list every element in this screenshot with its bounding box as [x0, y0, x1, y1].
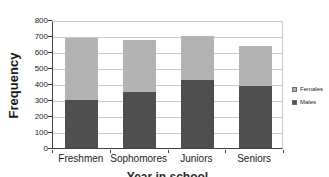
legend-label-females: Females	[300, 86, 323, 92]
x-category-label-juniors: Juniors	[168, 153, 226, 164]
bar-freshmen-females	[65, 38, 98, 100]
y-tick-500	[48, 68, 52, 69]
x-tick-4	[283, 150, 284, 153]
y-tick-label-500: 500	[18, 64, 48, 73]
y-tick-label-300: 300	[18, 96, 48, 105]
x-category-label-seniors: Seniors	[225, 153, 283, 164]
y-tick-label-200: 200	[18, 112, 48, 121]
bar-juniors-females	[181, 36, 214, 80]
y-tick-label-600: 600	[18, 48, 48, 57]
legend-item-females: Females	[292, 86, 329, 92]
legend-swatch-males	[292, 100, 297, 105]
y-tick-400	[48, 84, 52, 85]
x-category-label-freshmen: Freshmen	[52, 153, 110, 164]
y-tick-300	[48, 100, 52, 101]
y-tick-label-700: 700	[18, 32, 48, 41]
x-category-label-sophomores: Sophomores	[110, 153, 168, 164]
bar-freshmen-males	[65, 100, 98, 148]
y-tick-200	[48, 116, 52, 117]
bar-juniors-males	[181, 80, 214, 148]
y-tick-label-400: 400	[18, 80, 48, 89]
y-tick-800	[48, 20, 52, 21]
plot-area	[52, 21, 283, 149]
y-tick-label-0: 0	[18, 144, 48, 153]
legend-swatch-females	[292, 87, 297, 92]
legend: FemalesMales	[292, 86, 329, 112]
y-tick-label-800: 800	[18, 16, 48, 25]
y-tick-600	[48, 52, 52, 53]
bar-seniors-males	[239, 86, 272, 148]
y-tick-100	[48, 132, 52, 133]
y-tick-700	[48, 36, 52, 37]
legend-label-males: Males	[300, 99, 316, 105]
bar-seniors-females	[239, 46, 272, 86]
x-axis-title: Year in school	[52, 171, 283, 177]
legend-item-males: Males	[292, 99, 329, 105]
y-tick-0	[48, 148, 52, 149]
bar-sophomores-males	[123, 92, 156, 148]
y-tick-label-100: 100	[18, 128, 48, 137]
bar-sophomores-females	[123, 40, 156, 92]
stacked-bar-chart: Frequency 0100200300400500600700800 Fres…	[0, 0, 329, 177]
